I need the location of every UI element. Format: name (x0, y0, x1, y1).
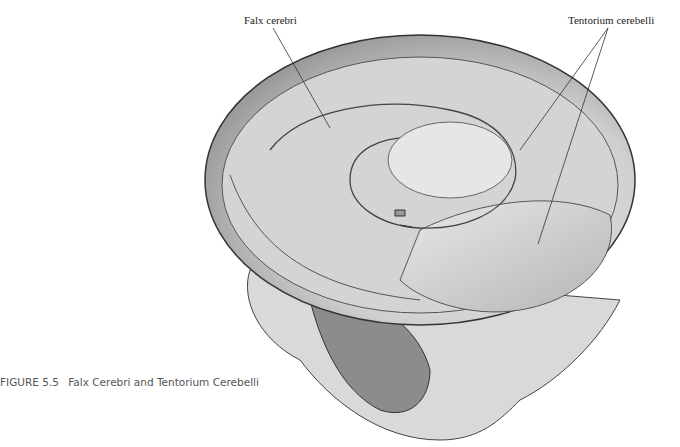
label-falx-cerebri: Falx cerebri (244, 14, 297, 26)
label-tentorium-cerebelli: Tentorium cerebelli (568, 14, 654, 26)
figure-caption: FIGURE 5.5 Falx Cerebri and Tentorium Ce… (0, 376, 259, 388)
figure-title: Falx Cerebri and Tentorium Cerebelli (68, 376, 259, 388)
figure-number: FIGURE 5.5 (0, 376, 59, 388)
